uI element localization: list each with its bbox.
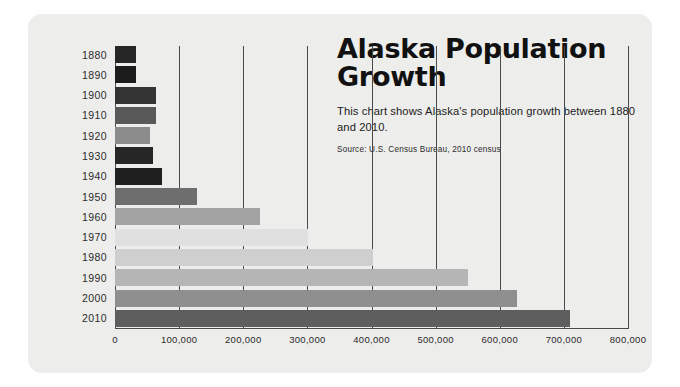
bar-row: 1960 [115, 208, 628, 225]
bar [115, 147, 153, 164]
x-tick-label: 600,000 [482, 334, 518, 345]
bar-row: 1950 [115, 188, 628, 205]
bar-category-label: 1890 [82, 69, 107, 81]
bar-row: 1910 [115, 107, 628, 124]
bar-row: 2010 [115, 310, 628, 327]
bar-category-label: 1910 [82, 109, 107, 121]
x-tick-label: 300,000 [289, 334, 325, 345]
x-tick-label: 400,000 [353, 334, 389, 345]
bar-row: 1990 [115, 269, 628, 286]
bar [115, 188, 197, 205]
bar-category-label: 2000 [82, 292, 107, 304]
bar-category-label: 1970 [82, 231, 107, 243]
chart-plot-area: 1880189019001910192019301940195019601970… [115, 46, 628, 329]
bar-category-label: 1900 [82, 89, 107, 101]
bar [115, 249, 373, 266]
bar [115, 208, 260, 225]
bar-category-label: 1940 [82, 170, 107, 182]
x-tick-label: 100,000 [161, 334, 197, 345]
bar-category-label: 1990 [82, 272, 107, 284]
bar-category-label: 1960 [82, 211, 107, 223]
bar [115, 168, 162, 185]
bar [115, 46, 136, 63]
bar [115, 229, 308, 246]
bar-row: 1940 [115, 168, 628, 185]
bar-row: 1920 [115, 127, 628, 144]
x-tick-label: 200,000 [225, 334, 261, 345]
bar-row: 1890 [115, 66, 628, 83]
bar [115, 290, 517, 307]
bar-category-label: 1950 [82, 191, 107, 203]
bar-row: 1980 [115, 249, 628, 266]
bar-category-label: 1920 [82, 130, 107, 142]
bar-row: 1880 [115, 46, 628, 63]
x-tick-label: 0 [112, 334, 118, 345]
chart-card: Alaska Population Growth This chart show… [28, 14, 652, 373]
bar [115, 66, 136, 83]
bar-category-label: 1980 [82, 251, 107, 263]
bar-row: 1970 [115, 229, 628, 246]
bar-row: 1930 [115, 147, 628, 164]
bar-category-label: 2010 [82, 312, 107, 324]
bar [115, 127, 150, 144]
bar [115, 107, 156, 124]
x-tick-label: 700,000 [546, 334, 582, 345]
gridline [628, 46, 629, 329]
x-tick-label: 500,000 [417, 334, 453, 345]
bar [115, 310, 570, 327]
x-tick-label: 800,000 [610, 334, 646, 345]
bar [115, 269, 468, 286]
bar-category-label: 1880 [82, 49, 107, 61]
bar-category-label: 1930 [82, 150, 107, 162]
bar-row: 1900 [115, 87, 628, 104]
bar-row: 2000 [115, 290, 628, 307]
bar [115, 87, 156, 104]
x-axis-tick-labels: 0100,000200,000300,000400,000500,000600,… [115, 334, 628, 350]
bar-rows: 1880189019001910192019301940195019601970… [115, 46, 628, 327]
x-axis-line [115, 328, 628, 329]
